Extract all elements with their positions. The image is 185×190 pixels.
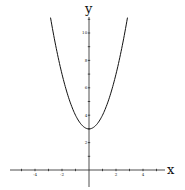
x-tick-label: -2 bbox=[60, 172, 64, 177]
x-tick-label: 4 bbox=[142, 172, 145, 177]
y-axis-label: y bbox=[84, 1, 93, 16]
y-tick-label: 4 bbox=[85, 113, 88, 118]
axes bbox=[10, 17, 165, 187]
parabola-chart: -4-224246810 x y bbox=[0, 0, 185, 190]
y-tick-label: 6 bbox=[85, 85, 88, 90]
y-tick-label: 2 bbox=[85, 140, 88, 145]
x-tick-label: -4 bbox=[33, 172, 37, 177]
y-tick-label: 8 bbox=[85, 58, 88, 63]
y-tick-label: 10 bbox=[82, 30, 88, 35]
x-tick-label: 2 bbox=[115, 172, 118, 177]
x-axis-label: x bbox=[167, 162, 175, 177]
